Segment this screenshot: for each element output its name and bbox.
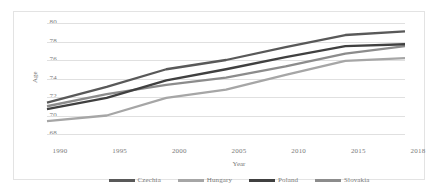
gridline xyxy=(47,134,405,135)
x-axis-title: Year xyxy=(60,160,418,168)
legend-label: Hungary xyxy=(207,176,232,184)
x-axis-tick-labels: 1990199520002005201020152018 xyxy=(60,148,418,160)
legend-label: Poland xyxy=(278,176,298,184)
legend-swatch-icon xyxy=(315,179,341,182)
series-lines xyxy=(47,23,405,134)
legend-swatch-icon xyxy=(109,179,135,182)
y-axis-title: Age xyxy=(31,73,39,83)
x-tick-label: 2000 xyxy=(172,148,187,155)
x-tick-label: 2010 xyxy=(291,148,306,155)
legend-label: Czechia xyxy=(138,176,161,184)
legend-entry-poland[interactable]: Poland xyxy=(249,176,298,184)
x-tick-label: 2015 xyxy=(351,148,366,155)
x-tick-label: 1990 xyxy=(53,148,68,155)
legend-label: Slovakia xyxy=(344,176,369,184)
series-line-czechia xyxy=(47,31,405,102)
series-line-hungary xyxy=(47,58,405,121)
legend-swatch-icon xyxy=(178,179,204,182)
chart-legend: CzechiaHungaryPolandSlovakia xyxy=(60,174,418,186)
x-tick-label: 1995 xyxy=(112,148,127,155)
x-tick-label: 2018 xyxy=(411,148,426,155)
legend-entry-slovakia[interactable]: Slovakia xyxy=(315,176,369,184)
legend-entry-hungary[interactable]: Hungary xyxy=(178,176,232,184)
series-line-slovakia xyxy=(47,46,405,106)
plot-area xyxy=(47,23,405,134)
legend-swatch-icon xyxy=(249,179,275,182)
legend-entry-czechia[interactable]: Czechia xyxy=(109,176,161,184)
x-tick-label: 2005 xyxy=(232,148,247,155)
chart-figure: 80787674727068 Age 199019952000200520102… xyxy=(13,11,425,180)
